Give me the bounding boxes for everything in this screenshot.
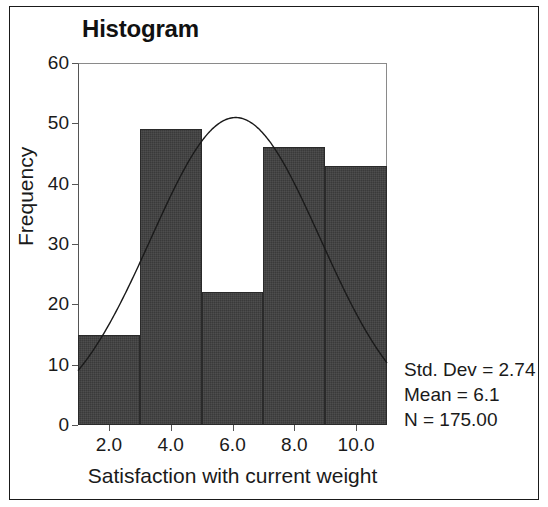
x-axis-label: Satisfaction with current weight (78, 464, 387, 488)
n-text: N = 175.00 (404, 407, 536, 432)
figure-panel: Histogram Frequency 0102030405060 2.04.0… (9, 6, 539, 500)
y-axis-label: Frequency (14, 147, 38, 246)
x-tick-mark (294, 425, 295, 431)
normal-curve-path (78, 118, 387, 371)
chart-title: Histogram (82, 15, 199, 43)
mean-text: Mean = 6.1 (404, 382, 536, 407)
y-tick-label: 0 (58, 414, 69, 436)
y-tick-label: 30 (48, 233, 69, 255)
y-tick-mark (72, 304, 78, 305)
x-tick-mark (356, 425, 357, 431)
x-tick-mark (233, 425, 234, 431)
y-tick-mark (72, 123, 78, 124)
x-tick-mark (171, 425, 172, 431)
x-tick-label: 4.0 (157, 434, 183, 456)
y-tick-mark (72, 244, 78, 245)
statistics-annotation: Std. Dev = 2.74 Mean = 6.1 N = 175.00 (404, 357, 536, 432)
x-tick-label: 10.0 (338, 434, 375, 456)
plot-area: 0102030405060 2.04.06.08.010.0 (78, 63, 387, 425)
y-tick-mark (72, 365, 78, 366)
y-tick-mark (72, 63, 78, 64)
normal-curve-overlay (78, 63, 387, 425)
y-tick-label: 60 (48, 52, 69, 74)
x-tick-label: 6.0 (219, 434, 245, 456)
y-tick-label: 20 (48, 293, 69, 315)
y-tick-mark (72, 184, 78, 185)
x-tick-label: 2.0 (96, 434, 122, 456)
x-tick-label: 8.0 (281, 434, 307, 456)
y-tick-mark (72, 425, 78, 426)
y-tick-label: 10 (48, 354, 69, 376)
y-tick-label: 40 (48, 173, 69, 195)
x-tick-mark (109, 425, 110, 431)
std-dev-text: Std. Dev = 2.74 (404, 357, 536, 382)
y-tick-label: 50 (48, 112, 69, 134)
